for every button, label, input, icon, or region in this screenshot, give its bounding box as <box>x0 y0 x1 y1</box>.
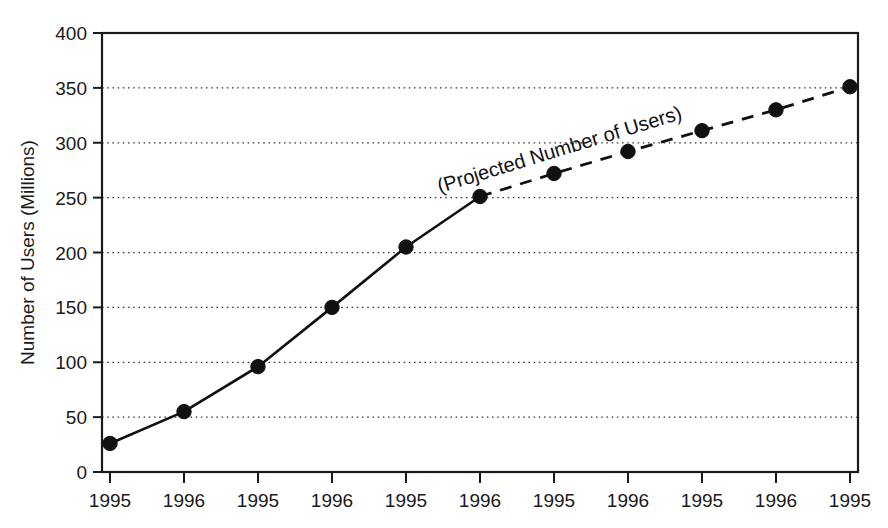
x-tick-label-2: 1995 <box>237 490 279 511</box>
y-tick-label-350: 350 <box>55 78 87 99</box>
x-tick-label-10: 1995 <box>829 490 871 511</box>
y-tick-label-0: 0 <box>76 462 87 483</box>
line-chart: 050100150200250300350400 199519961995199… <box>0 0 888 528</box>
chart-background <box>0 0 888 528</box>
y-axis-title-text: Number of Users (Millions) <box>17 140 38 365</box>
y-tick-label-100: 100 <box>55 352 87 373</box>
y-tick-label-400: 400 <box>55 23 87 44</box>
data-point-marker <box>843 80 857 94</box>
data-point-marker <box>769 103 783 117</box>
y-tick-label-50: 50 <box>66 407 87 428</box>
y-axis-title: Number of Users (Millions) <box>17 140 38 365</box>
data-point-marker <box>547 166 561 180</box>
x-tick-label-8: 1995 <box>681 490 723 511</box>
data-point-marker <box>177 404 191 418</box>
chart-figure: 050100150200250300350400 199519961995199… <box>0 0 888 528</box>
x-tick-label-1: 1996 <box>163 490 205 511</box>
data-point-marker <box>473 189 487 203</box>
data-point-marker <box>103 436 117 450</box>
x-tick-label-4: 1995 <box>385 490 427 511</box>
x-tick-label-0: 1995 <box>89 490 131 511</box>
x-tick-label-7: 1996 <box>607 490 649 511</box>
y-tick-label-250: 250 <box>55 188 87 209</box>
data-point-marker <box>621 144 635 158</box>
y-tick-label-150: 150 <box>55 297 87 318</box>
data-point-marker <box>251 359 265 373</box>
y-tick-label-200: 200 <box>55 243 87 264</box>
data-point-marker <box>399 240 413 254</box>
x-tick-label-5: 1996 <box>459 490 501 511</box>
x-tick-label-3: 1996 <box>311 490 353 511</box>
x-tick-label-9: 1996 <box>755 490 797 511</box>
data-point-marker <box>695 123 709 137</box>
y-tick-label-300: 300 <box>55 133 87 154</box>
x-tick-label-6: 1995 <box>533 490 575 511</box>
data-point-marker <box>325 300 339 314</box>
